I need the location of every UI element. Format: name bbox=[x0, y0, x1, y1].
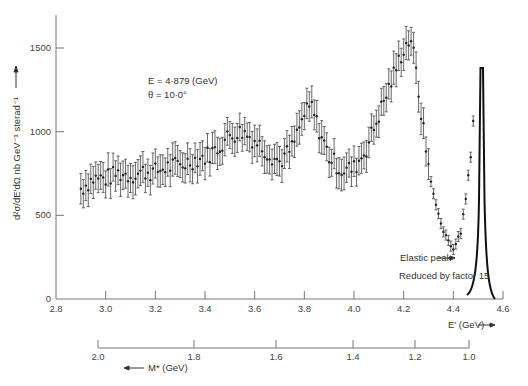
data-point bbox=[291, 140, 293, 142]
data-point bbox=[176, 160, 178, 162]
data-point bbox=[363, 154, 365, 156]
data-point bbox=[179, 163, 181, 165]
reduction-label: Reduced by factor 15 bbox=[399, 270, 489, 281]
data-point bbox=[472, 120, 474, 122]
data-point bbox=[378, 121, 380, 123]
data-point bbox=[318, 137, 320, 139]
x-tick-label: 3.0 bbox=[99, 303, 112, 314]
data-point bbox=[172, 158, 174, 160]
data-point bbox=[286, 145, 288, 147]
data-point bbox=[139, 169, 141, 171]
data-point bbox=[181, 166, 183, 168]
data-point bbox=[273, 158, 275, 160]
data-point bbox=[296, 129, 298, 131]
y-tick-label: 500 bbox=[35, 209, 51, 220]
data-point bbox=[263, 156, 265, 158]
data-point bbox=[445, 234, 447, 236]
data-point bbox=[373, 129, 375, 131]
data-point bbox=[325, 146, 327, 148]
data-point bbox=[154, 162, 156, 164]
data-point bbox=[340, 174, 342, 176]
data-point bbox=[186, 157, 188, 159]
data-point bbox=[117, 169, 119, 171]
data-point bbox=[442, 231, 444, 233]
data-point bbox=[360, 157, 362, 159]
data-point bbox=[144, 177, 146, 179]
x-tick-label: 3.8 bbox=[298, 303, 311, 314]
data-point bbox=[152, 167, 154, 169]
data-point bbox=[393, 66, 395, 68]
data-point bbox=[417, 96, 419, 98]
y-axis-arrow-icon bbox=[14, 66, 18, 88]
data-point bbox=[370, 126, 372, 128]
data-point bbox=[104, 183, 106, 185]
data-point bbox=[119, 179, 121, 181]
data-points bbox=[79, 26, 474, 254]
data-point bbox=[258, 140, 260, 142]
data-point bbox=[95, 174, 97, 176]
data-point bbox=[194, 157, 196, 159]
data-point bbox=[109, 182, 111, 184]
data-point bbox=[134, 177, 136, 179]
data-point bbox=[390, 85, 392, 87]
data-point bbox=[211, 147, 213, 149]
data-point bbox=[281, 165, 283, 167]
data-point bbox=[412, 47, 414, 49]
data-point bbox=[266, 158, 268, 160]
data-point bbox=[256, 144, 258, 146]
data-point bbox=[440, 222, 442, 224]
data-point bbox=[196, 165, 198, 167]
data-point bbox=[174, 157, 176, 159]
data-point bbox=[368, 141, 370, 143]
data-point bbox=[221, 150, 223, 152]
data-point bbox=[321, 136, 323, 138]
data-point bbox=[447, 239, 449, 241]
data-point bbox=[147, 172, 149, 174]
data-point bbox=[402, 54, 404, 56]
data-point bbox=[199, 158, 201, 160]
data-point bbox=[97, 177, 99, 179]
data-point bbox=[435, 204, 437, 206]
data-point bbox=[92, 181, 94, 183]
x-tick-label: 3.4 bbox=[198, 303, 211, 314]
data-point bbox=[137, 173, 139, 175]
data-point bbox=[333, 152, 335, 154]
data-point bbox=[219, 151, 221, 153]
data-point bbox=[343, 172, 345, 174]
data-point bbox=[457, 235, 459, 237]
data-point bbox=[353, 160, 355, 162]
data-point bbox=[127, 180, 129, 182]
x-tick-label: 4.4 bbox=[447, 303, 460, 314]
data-point bbox=[107, 168, 109, 170]
data-point bbox=[316, 115, 318, 117]
data-point bbox=[430, 180, 432, 182]
data-point bbox=[365, 155, 367, 157]
data-point bbox=[224, 138, 226, 140]
data-point bbox=[380, 101, 382, 103]
data-point bbox=[231, 137, 233, 139]
data-point bbox=[345, 166, 347, 168]
data-point bbox=[251, 146, 253, 148]
x-tick-label: 2.8 bbox=[49, 303, 62, 314]
data-point bbox=[420, 118, 422, 120]
data-point bbox=[241, 137, 243, 139]
data-point bbox=[358, 160, 360, 162]
data-point bbox=[249, 136, 251, 138]
data-point bbox=[288, 151, 290, 153]
y-tick-label: 1500 bbox=[30, 42, 51, 53]
data-point bbox=[470, 156, 472, 158]
data-point bbox=[465, 198, 467, 200]
x-ticks: 2.83.03.23.43.63.84.04.24.44.6 bbox=[49, 291, 509, 314]
data-point bbox=[437, 213, 439, 215]
data-point bbox=[278, 160, 280, 162]
secondary-axis-arrow-icon bbox=[124, 366, 144, 370]
data-point bbox=[348, 162, 350, 164]
data-point bbox=[350, 170, 352, 172]
data-point bbox=[432, 193, 434, 195]
data-point bbox=[455, 243, 457, 245]
data-point bbox=[229, 134, 231, 136]
data-point bbox=[460, 233, 462, 235]
data-point bbox=[142, 166, 144, 168]
data-point bbox=[132, 181, 134, 183]
data-point bbox=[122, 174, 124, 176]
